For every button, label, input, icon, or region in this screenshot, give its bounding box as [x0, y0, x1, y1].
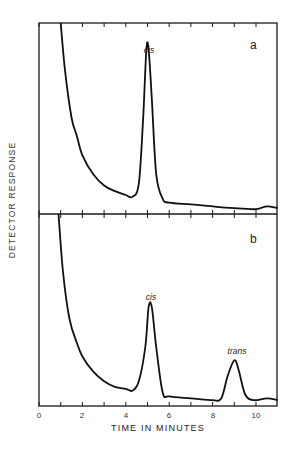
x-tick-label-10: 10 [252, 411, 261, 420]
y-axis-label-text: DETECTOR RESPONSE [7, 142, 17, 259]
x-tick-label-6: 6 [167, 411, 171, 420]
peak-label-cis-a: cis [144, 45, 154, 55]
peak-label-cis-b: cis [146, 292, 156, 302]
panel-label-b: b [250, 232, 257, 246]
x-tick-label-8: 8 [211, 411, 215, 420]
y-axis-label: DETECTOR RESPONSE [4, 100, 20, 300]
chromatogram-b-trace [59, 214, 278, 401]
x-tick-label-2: 2 [80, 411, 84, 420]
x-tick-label-4: 4 [124, 411, 128, 420]
panel-label-a: a [250, 38, 257, 52]
x-axis-title: TIME IN MINUTES [39, 423, 277, 433]
x-tick-label-0: 0 [37, 411, 41, 420]
chromatogram-figure [0, 0, 295, 449]
chromatogram-a-trace [61, 23, 278, 209]
peak-label-trans-b: trans [228, 346, 247, 356]
